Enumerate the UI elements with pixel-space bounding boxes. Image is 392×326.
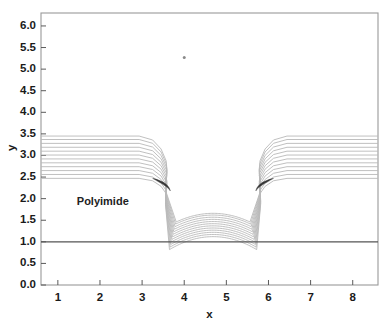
- figure-canvas: 0.00.51.01.52.02.53.03.54.04.55.05.56.0 …: [0, 0, 392, 326]
- x-tick-label: 6: [256, 292, 280, 304]
- y-tick-label: 1.5: [12, 214, 36, 226]
- x-tick-label: 2: [88, 292, 112, 304]
- artifact-dot: [183, 56, 186, 59]
- x-tick-label: 8: [341, 292, 365, 304]
- x-tick-label: 5: [214, 292, 238, 304]
- x-tick-label: 1: [46, 292, 70, 304]
- x-tick-label: 3: [130, 292, 154, 304]
- y-tick-label: 6.0: [12, 20, 36, 32]
- x-tick-label: 7: [299, 292, 323, 304]
- y-tick-label: 5.5: [12, 42, 36, 54]
- x-axis-label: x: [195, 309, 225, 321]
- y-tick-label: 1.0: [12, 236, 36, 248]
- y-tick-label: 0.0: [12, 279, 36, 291]
- polyimide-annotation-label: Polyimide: [77, 196, 129, 207]
- contour-plot-svg: [0, 0, 392, 326]
- y-tick-label: 2.0: [12, 193, 36, 205]
- y-tick-label: 4.5: [12, 85, 36, 97]
- y-tick-label: 2.5: [12, 171, 36, 183]
- artifact-dot-mark: [183, 56, 186, 59]
- x-tick-label: 4: [172, 292, 196, 304]
- y-tick-label: 4.0: [12, 106, 36, 118]
- y-axis-label: y: [6, 138, 18, 158]
- y-tick-label: 0.5: [12, 257, 36, 269]
- y-tick-label: 5.0: [12, 63, 36, 75]
